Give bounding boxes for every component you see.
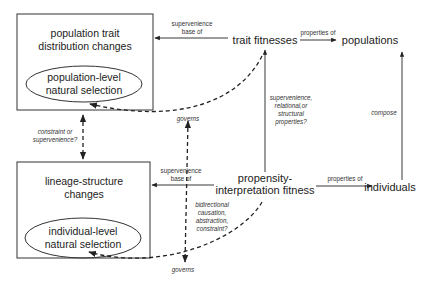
- label-constraint-2: supervenience?: [33, 136, 78, 144]
- top-ellipse-line2: natural selection: [46, 84, 123, 96]
- dashed-governs-vertical: [185, 121, 188, 262]
- populations-node: populations: [342, 34, 399, 46]
- individuals-node: individuals: [364, 181, 416, 193]
- top-box-line2: distribution changes: [38, 40, 131, 52]
- population-trait-distribution-box: population trait distribution changes po…: [17, 14, 153, 110]
- label-relational-4: properties?: [274, 118, 307, 126]
- label-governs-bottom: governs: [172, 266, 195, 274]
- label-bidirectional-2: causation,: [198, 209, 227, 216]
- label-bidirectional-4: constraint?: [197, 225, 228, 232]
- label-bottom-supervenience-2: base of: [171, 175, 192, 182]
- lineage-structure-box: lineage-structure changes individual-lev…: [17, 162, 150, 258]
- bottom-box-line1: lineage-structure: [45, 175, 123, 187]
- label-relational-2: relational,or: [275, 102, 309, 109]
- top-ellipse-line1: population-level: [47, 71, 121, 83]
- propensity-node-line2: interpretation fitness: [215, 184, 315, 196]
- label-bottom-supervenience-1: supervenience: [161, 167, 202, 175]
- bottom-box-line2: changes: [64, 188, 104, 200]
- trait-fitnesses-node: trait fitnesses: [233, 34, 298, 46]
- label-relational-3: structural: [278, 110, 304, 117]
- top-box-line1: population trait: [51, 27, 120, 39]
- bottom-ellipse-line1: individual-level: [49, 225, 118, 237]
- label-top-supervenience-2: base of: [182, 28, 203, 35]
- label-compose: compose: [371, 109, 397, 117]
- bottom-ellipse-line2: natural selection: [45, 238, 122, 250]
- label-relational-1: supervenience,: [270, 94, 313, 102]
- diagram-canvas: population trait distribution changes po…: [0, 0, 442, 284]
- label-bidirectional-1: bidirectional: [195, 201, 229, 208]
- label-constraint-1: constraint or: [38, 128, 74, 135]
- label-top-properties-of: properties of: [300, 29, 335, 37]
- label-top-supervenience-1: supervenience: [172, 20, 213, 28]
- label-governs-top: governs: [177, 115, 200, 123]
- propensity-node-line1: propensity-: [238, 172, 293, 184]
- label-bidirectional-3: abstraction,: [196, 217, 229, 224]
- label-bottom-properties-of: properties of: [327, 175, 362, 183]
